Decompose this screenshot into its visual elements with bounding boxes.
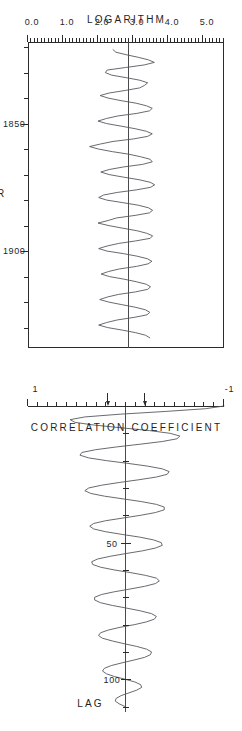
correlogram-value-tick <box>135 402 136 406</box>
timeseries-y-tick <box>115 38 116 42</box>
timeseries-y-tick-label: 0.0 <box>19 17 39 27</box>
timeseries-y-tick <box>38 38 39 42</box>
correlogram-value-tick <box>115 402 116 406</box>
correlogram-value-tick-label: -1 <box>216 384 234 394</box>
timeseries-y-tick <box>220 38 221 42</box>
correlogram-value-tick <box>213 402 214 406</box>
timeseries-y-tick <box>69 38 70 42</box>
timeseries-y-tick <box>80 38 81 42</box>
correlogram-confidence-arrow-head <box>106 401 110 406</box>
timeseries-x-tick-label: 1850 <box>3 119 25 129</box>
timeseries-y-tick <box>157 38 158 42</box>
correlogram-lag-tick-label: 50 <box>101 539 123 549</box>
timeseries-y-tick <box>59 38 60 42</box>
timeseries-x-tick <box>24 149 28 150</box>
correlogram-confidence-arrow-head <box>143 401 147 406</box>
correlogram-value-tick <box>194 402 195 406</box>
timeseries-x-tick <box>24 328 28 329</box>
correlogram-value-tick <box>66 402 67 406</box>
timeseries-x-tick <box>24 200 28 201</box>
correlogram-value-tick <box>37 402 38 406</box>
correlogram-lag-tick <box>123 625 129 626</box>
timeseries-x-axis-title: YEAR <box>0 188 7 199</box>
correlogram-lag-tick <box>123 433 129 434</box>
timeseries-y-tick <box>174 38 175 42</box>
timeseries-y-tick <box>188 38 189 42</box>
correlogram-lag-tick-label: 100 <box>101 675 123 685</box>
correlogram-lag-tick <box>123 461 129 462</box>
timeseries-y-tick <box>199 38 200 42</box>
timeseries-y-tick <box>160 38 161 42</box>
correlogram-value-tick <box>27 399 28 406</box>
timeseries-y-tick <box>223 38 224 42</box>
timeseries-y-tick <box>185 38 186 42</box>
correlogram-value-tick <box>184 402 185 406</box>
timeseries-x-tick <box>24 98 28 99</box>
timeseries-y-tick <box>111 38 112 42</box>
timeseries-y-tick <box>167 35 168 42</box>
timeseries-y-tick <box>41 38 42 42</box>
timeseries-x-tick <box>24 302 28 303</box>
timeseries-y-tick <box>153 38 154 42</box>
timeseries-y-tick <box>101 38 102 42</box>
correlogram-value-tick <box>174 402 175 406</box>
timeseries-x-tick <box>24 47 28 48</box>
timeseries-y-tick <box>146 38 147 42</box>
correlogram-lag-tick <box>123 570 129 571</box>
timeseries-y-tick <box>48 38 49 42</box>
timeseries-y-tick <box>136 38 137 42</box>
timeseries-y-tick <box>76 38 77 42</box>
timeseries-y-tick <box>139 38 140 42</box>
timeseries-y-tick <box>45 38 46 42</box>
correlogram-value-tick <box>86 402 87 406</box>
timeseries-y-tick <box>73 38 74 42</box>
timeseries-y-tick <box>90 38 91 42</box>
timeseries-y-tick <box>118 38 119 42</box>
correlogram-value-tick <box>47 402 48 406</box>
correlogram-value-tick <box>164 402 165 406</box>
correlogram-lag-tick <box>123 652 129 653</box>
timeseries-y-tick-label: 5.0 <box>194 17 214 27</box>
timeseries-x-tick <box>24 226 28 227</box>
timeseries-y-tick <box>87 38 88 42</box>
timeseries-y-tick <box>122 38 123 42</box>
correlogram-lag-tick <box>123 515 129 516</box>
timeseries-x-tick <box>24 277 28 278</box>
timeseries-y-tick <box>62 35 63 42</box>
correlogram-lag-tick <box>123 597 129 598</box>
correlogram-value-tick <box>203 402 204 406</box>
timeseries-y-tick <box>52 38 53 42</box>
timeseries-panel: 18501900 0.01.02.03.04.05.0 YEAR LOGARIT… <box>0 6 242 358</box>
correlogram-lag-tick <box>123 406 129 407</box>
correlogram-curve <box>28 406 224 712</box>
timeseries-y-tick <box>216 38 217 42</box>
timeseries-y-tick <box>195 38 196 42</box>
correlogram-value-axis-title: CORRELATION COEFFICIENT <box>31 422 223 433</box>
timeseries-y-tick <box>202 35 203 42</box>
correlogram-value-tick <box>96 402 97 406</box>
correlogram-value-tick <box>56 402 57 406</box>
timeseries-y-tick <box>66 38 67 42</box>
figure-canvas: 18501900 0.01.02.03.04.05.0 YEAR LOGARIT… <box>0 0 242 731</box>
timeseries-y-tick <box>104 38 105 42</box>
correlogram-lag-tick <box>123 488 129 489</box>
timeseries-y-tick <box>171 38 172 42</box>
timeseries-y-tick <box>213 38 214 42</box>
timeseries-y-tick <box>83 38 84 42</box>
timeseries-x-tick <box>24 175 28 176</box>
timeseries-y-tick <box>192 38 193 42</box>
timeseries-y-tick <box>129 38 130 42</box>
timeseries-y-tick <box>94 38 95 42</box>
timeseries-y-tick <box>206 38 207 42</box>
timeseries-y-tick <box>209 38 210 42</box>
correlogram-value-tick <box>76 402 77 406</box>
correlogram-value-tick <box>223 399 224 406</box>
correlogram-panel: -11 50100 LAG CORRELATION COEFFICIENT <box>0 376 242 728</box>
timeseries-y-tick-label: 1.0 <box>54 17 74 27</box>
correlogram-value-tick <box>154 402 155 406</box>
timeseries-y-tick <box>143 38 144 42</box>
timeseries-curve <box>28 42 224 348</box>
timeseries-y-axis-title: LOGARITHM <box>87 14 166 25</box>
timeseries-x-tick-label: 1900 <box>3 246 25 256</box>
timeseries-y-tick <box>108 38 109 42</box>
